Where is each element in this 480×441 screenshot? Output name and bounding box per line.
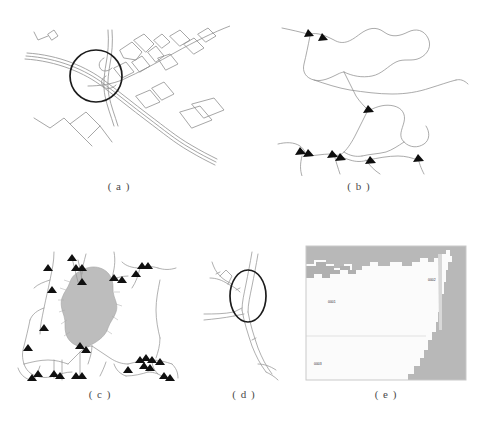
panel-b-map xyxy=(248,6,470,176)
node-marker xyxy=(43,264,53,271)
panel-c-caption: ( c ) xyxy=(10,388,190,400)
highlight-circle xyxy=(70,50,122,102)
raster-label-0002: 0002 xyxy=(428,278,436,282)
node-marker xyxy=(117,276,127,283)
raster-label-0001: 0001 xyxy=(328,300,336,304)
panel-a-map xyxy=(8,6,230,176)
panel-e: 0001 0002 0003 ( e ) xyxy=(300,240,472,400)
panel-d: ( d ) xyxy=(196,240,292,400)
panel-b-caption: ( b ) xyxy=(248,180,470,192)
panel-a: ( a ) xyxy=(8,6,230,192)
panel-a-caption: ( a ) xyxy=(8,180,230,192)
figure-container: ( a ) xyxy=(0,0,480,441)
junction-marker xyxy=(413,154,424,162)
panel-c-map xyxy=(10,240,190,386)
panel-b: ( b ) xyxy=(248,6,470,192)
panel-d-caption: ( d ) xyxy=(196,388,292,400)
node-marker xyxy=(33,370,43,377)
panel-d-map xyxy=(196,240,292,386)
node-marker xyxy=(67,254,77,261)
raster-label-0003: 0003 xyxy=(314,362,322,366)
panel-e-caption: ( e ) xyxy=(300,388,472,400)
lake-polygon xyxy=(61,267,117,347)
node-marker xyxy=(123,366,133,373)
junction-marker xyxy=(365,156,376,164)
panel-c: ( c ) xyxy=(10,240,190,400)
panel-e-raster xyxy=(300,240,472,386)
junction-markers xyxy=(295,29,424,164)
